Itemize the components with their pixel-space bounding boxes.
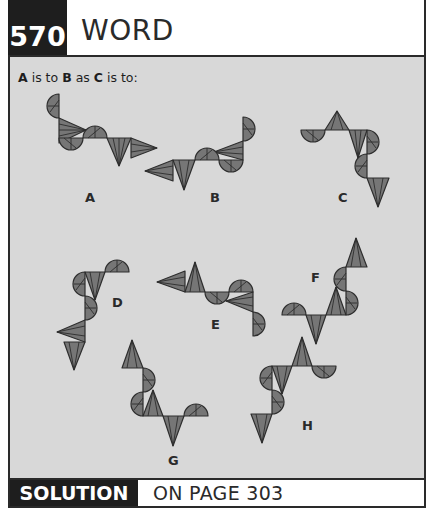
figure-label-e: E: [211, 317, 220, 332]
solution-label: SOLUTION: [10, 480, 138, 506]
solution-page-reference: ON PAGE 303: [153, 482, 283, 504]
figure-label-f: F: [311, 270, 320, 285]
figure-label-g: G: [168, 453, 179, 468]
figures-canvas: [0, 0, 433, 516]
figure-d[interactable]: [57, 260, 129, 370]
figure-h[interactable]: [251, 337, 336, 443]
figure-g[interactable]: [122, 340, 208, 446]
figure-label-h: H: [302, 418, 313, 433]
solution-footer: SOLUTION ON PAGE 303: [8, 478, 426, 508]
figure-label-b: B: [210, 190, 220, 205]
figure-b[interactable]: [145, 117, 255, 190]
figure-a[interactable]: [47, 94, 157, 166]
figure-label-a: A: [85, 190, 95, 205]
figure-label-c: C: [338, 190, 348, 205]
figure-f[interactable]: [282, 238, 367, 344]
figure-label-d: D: [112, 295, 123, 310]
